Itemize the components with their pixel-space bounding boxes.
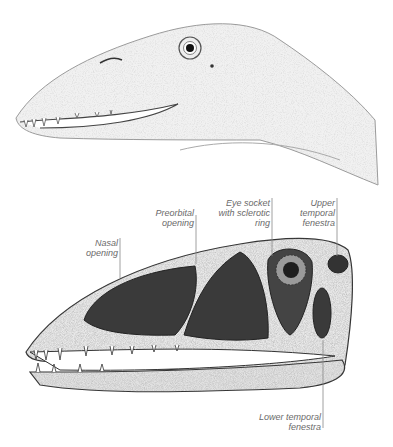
sclerotic-ring	[276, 255, 306, 285]
eye-socket-shape	[268, 249, 313, 335]
nasal-opening-shape	[84, 266, 196, 335]
label-eye-socket: Eye socket with sclerotic ring	[212, 198, 270, 228]
skull-outline	[26, 238, 352, 376]
upper-temporal-shape	[328, 255, 348, 273]
lower-jaw	[30, 360, 345, 392]
lower-temporal-shape	[313, 288, 331, 338]
skull-teeth	[34, 345, 179, 372]
label-upper-temporal-fenestra: Upper temporal fenestra	[296, 198, 335, 228]
preorbital-opening-shape	[184, 252, 268, 340]
head-illustration	[0, 0, 393, 195]
leader-lines	[120, 198, 337, 428]
label-nasal-opening: Nasal opening	[80, 238, 118, 258]
label-lower-temporal-fenestra: Lower temporal fenestra	[252, 412, 321, 432]
jaw-gap	[30, 349, 335, 370]
label-preorbital-opening: Preorbital opening	[148, 208, 194, 228]
